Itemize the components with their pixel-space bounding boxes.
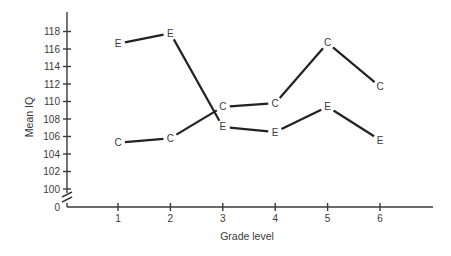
y-tick-label: 102 (43, 166, 60, 177)
y-axis: 0100102104106108110112114116118 (43, 12, 72, 213)
series-segment (174, 39, 220, 120)
y-tick-label: 112 (44, 79, 60, 90)
x-tick-label: 2 (168, 213, 174, 224)
point-marker: C (324, 37, 331, 48)
series-segment (333, 47, 375, 82)
series-segment (280, 48, 323, 98)
x-axis: 123456 (67, 203, 433, 224)
y-tick-label: 104 (43, 149, 60, 160)
series-segment (125, 139, 163, 142)
x-axis-title: Grade level (220, 230, 274, 242)
series-segment (125, 35, 164, 43)
point-marker: C (114, 137, 121, 148)
y-tick-label: 110 (44, 96, 60, 107)
point-marker: E (115, 38, 122, 49)
y-tick-label: 108 (43, 114, 60, 125)
x-tick-label: 1 (115, 213, 121, 224)
y-tick-label: 116 (44, 44, 60, 55)
point-marker: C (376, 81, 383, 92)
point-marker: E (167, 28, 174, 39)
y-tick-label: 118 (44, 26, 60, 37)
series-segment (282, 110, 322, 129)
point-marker: E (272, 127, 279, 138)
series-e: EEEEEE (115, 28, 384, 146)
y-axis-title: Mean IQ (23, 97, 35, 137)
y-tick-label: 106 (43, 131, 60, 142)
y-tick-label: 114 (44, 61, 60, 72)
series-segment (230, 128, 268, 132)
y-tick-label: 100 (43, 184, 60, 195)
x-tick-label: 6 (377, 213, 383, 224)
point-marker: C (272, 98, 279, 109)
series-segment (334, 111, 375, 137)
x-tick-label: 5 (325, 213, 331, 224)
x-tick-label: 4 (272, 213, 278, 224)
series-segment (230, 104, 268, 107)
series-segment (176, 110, 216, 134)
point-marker: C (219, 101, 226, 112)
series-c: CCCCCC (114, 37, 383, 148)
line-chart: 0100102104106108110112114116118 123456 E… (0, 0, 451, 256)
axis-break-mark (62, 197, 72, 202)
series-layer: EEEEEECCCCCC (114, 28, 383, 148)
point-marker: C (167, 133, 174, 144)
y-tick-label: 0 (54, 202, 60, 213)
point-marker: E (324, 101, 331, 112)
point-marker: E (377, 135, 384, 146)
point-marker: E (219, 121, 226, 132)
x-tick-label: 3 (220, 213, 226, 224)
